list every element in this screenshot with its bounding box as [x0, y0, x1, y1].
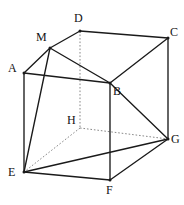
diagonal-e-g [24, 139, 168, 172]
vertex-point-d [79, 30, 82, 33]
solid-edge-group [24, 31, 168, 180]
vertex-label-h: H [67, 114, 76, 126]
vertex-point-a [23, 72, 26, 75]
vertex-label-a: A [8, 62, 17, 74]
edge-h-g [80, 128, 168, 139]
edge-a-b [24, 73, 110, 83]
edge-e-f [24, 172, 110, 180]
segment-m-e [24, 48, 50, 172]
vertex-dot-group [23, 30, 170, 182]
vertex-label-e: E [8, 166, 15, 178]
vertex-point-b [109, 82, 112, 85]
vertex-point-m [49, 47, 52, 50]
edge-d-c [80, 31, 168, 38]
vertex-label-m: M [36, 31, 47, 43]
cube-diagram-svg [0, 0, 184, 205]
geometry-figure: ABCDEFGHM [0, 0, 184, 205]
edge-b-c [110, 38, 168, 83]
vertex-point-e [23, 171, 26, 174]
vertex-point-f [109, 179, 112, 182]
vertex-point-g [167, 138, 170, 141]
edge-m-d [50, 31, 80, 48]
vertex-label-b: B [113, 85, 121, 97]
vertex-label-f: F [106, 184, 113, 196]
vertex-label-g: G [171, 133, 180, 145]
vertex-label-c: C [170, 26, 178, 38]
vertex-label-d: D [74, 12, 83, 24]
